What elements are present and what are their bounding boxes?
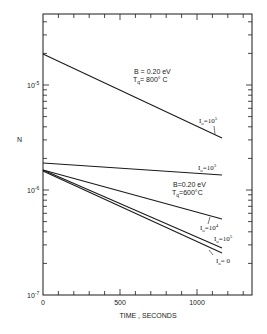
x-axis-label: TIME , SECONDS (119, 312, 177, 319)
y-axis-label: N (17, 136, 22, 143)
annotation-lower-b: B=0.20 eV (173, 181, 206, 188)
chart-canvas: 10-7 10-6 10-5 0 500 1000 TIME , SECONDS… (0, 0, 267, 334)
y-tick-label-1e-7: 10-7 (27, 290, 39, 299)
y-ticks-right (246, 22, 252, 264)
y-tick-label-1e-5: 10-5 (27, 80, 39, 89)
y-ticks-left (43, 22, 49, 264)
x-tick-label-1000: 1000 (189, 299, 205, 306)
curve-800c-i0-1e5 (43, 54, 222, 138)
annotation-upper-i0: Io=105 (199, 116, 218, 126)
annotation-i0-1e5: Io=105 (214, 234, 233, 244)
annotation-i0-1e3: Io=103 (198, 163, 217, 173)
pointer-i0-0 (209, 250, 213, 255)
pointer-upper-i0 (214, 126, 215, 134)
x-ticks-bottom (58, 289, 243, 295)
pointer-i0-1e4 (208, 217, 210, 224)
curve-600c-i0-1e3 (43, 163, 222, 175)
y-tick-label-1e-6: 10-6 (27, 185, 39, 194)
x-tick-label-0: 0 (41, 299, 45, 306)
annotation-lower-tq: Tq=600°C (172, 189, 203, 198)
x-ticks-top (58, 14, 243, 20)
annotation-i0-0: Io= 0 (216, 257, 231, 266)
annotation-upper-b: B = 0.20 eV (134, 68, 171, 75)
annotation-i0-1e4: Io=104 (200, 223, 219, 233)
x-tick-label-500: 500 (114, 299, 126, 306)
annotation-upper-tq: Tq= 800° C (133, 76, 168, 85)
